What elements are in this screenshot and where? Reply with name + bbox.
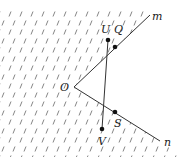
hatch-mark [167, 75, 169, 80]
hatch-mark [53, 84, 55, 89]
hatch-mark [123, 111, 125, 116]
hatch-mark [97, 30, 99, 35]
point-q [113, 45, 118, 50]
hatch-mark [75, 48, 77, 53]
hatch-mark [20, 84, 22, 89]
hatch-mark [156, 39, 158, 44]
hatch-mark [75, 30, 77, 35]
hatch-mark [156, 57, 158, 62]
hatch-mark [112, 75, 114, 80]
hatch-mark [101, 75, 103, 80]
hatch-mark [31, 12, 33, 17]
hatch-mark [64, 66, 66, 71]
label-ray-n: n [164, 136, 171, 149]
hatch-mark [86, 84, 88, 89]
hatch-mark [9, 84, 11, 89]
hatch-mark [101, 93, 103, 98]
hatch-mark [178, 111, 180, 116]
hatch-mark [86, 156, 88, 158]
hatch-mark [68, 111, 70, 116]
hatch-mark [20, 12, 22, 17]
label-point-u: U [101, 23, 111, 36]
hatch-mark [68, 57, 70, 62]
hatch-mark [35, 129, 37, 134]
hatch-mark [145, 39, 147, 44]
hatch-mark [35, 57, 37, 62]
hatch-mark [2, 129, 4, 134]
hatch-mark [35, 147, 37, 152]
hatch-mark [97, 120, 99, 125]
hatch-mark [24, 21, 26, 26]
hatch-mark [75, 156, 77, 158]
hatch-mark [64, 12, 66, 17]
hatch-mark [163, 120, 165, 125]
hatch-mark [24, 129, 26, 134]
hatch-mark [141, 120, 143, 125]
hatch-mark [57, 93, 59, 98]
hatch-mark [134, 147, 136, 152]
hatch-mark [167, 21, 169, 26]
hatch-mark [20, 120, 22, 125]
hatch-mark [35, 75, 37, 80]
hatch-mark [152, 156, 154, 158]
hatch-mark [57, 39, 59, 44]
hatch-mark [57, 57, 59, 62]
hatch-mark [75, 102, 77, 107]
hatch-mark [57, 111, 59, 116]
hatch-mark [79, 93, 81, 98]
hatch-mark [123, 129, 125, 134]
hatch-mark [64, 30, 66, 35]
hatch-mark [53, 30, 55, 35]
hatch-mark [119, 66, 121, 71]
hatch-mark [123, 93, 125, 98]
hatch-mark [141, 30, 143, 35]
hatch-mark [42, 30, 44, 35]
hatch-mark [9, 66, 11, 71]
hatch-mark [141, 12, 143, 17]
hatch-mark [145, 57, 147, 62]
hatch-mark [141, 48, 143, 53]
hatch-mark [2, 111, 4, 116]
hatch-mark [13, 147, 15, 152]
hatch-mark [108, 138, 110, 143]
hatch-mark [108, 48, 110, 53]
hatch-mark [46, 21, 48, 26]
hatch-mark [86, 66, 88, 71]
hatch-mark [134, 129, 136, 134]
hatch-mark [24, 147, 26, 152]
hatch-mark [97, 12, 99, 17]
hatch-mark [163, 48, 165, 53]
label-point-q: Q [114, 23, 123, 36]
hatch-mark [64, 102, 66, 107]
hatch-mark [97, 66, 99, 71]
hatch-mark [108, 156, 110, 158]
hatch-mark [130, 12, 132, 17]
hatch-mark [130, 138, 132, 143]
hatch-mark [86, 48, 88, 53]
geometry-diagram: O m n U Q S V [0, 0, 181, 157]
hatch-mark [31, 66, 33, 71]
hatch-mark [2, 57, 4, 62]
hatch-mark [24, 75, 26, 80]
hatch-mark [119, 12, 121, 17]
hatch-mark [42, 120, 44, 125]
hatch-mark [178, 129, 180, 134]
hatch-mark [13, 129, 15, 134]
hatch-mark [42, 12, 44, 17]
hatch-mark [141, 66, 143, 71]
hatch-mark [31, 102, 33, 107]
hatch-mark [112, 39, 114, 44]
hatch-mark [90, 111, 92, 116]
hatch-mark [152, 138, 154, 143]
hatch-mark [167, 93, 169, 98]
hatch-mark [130, 102, 132, 107]
hatch-mark [9, 12, 11, 17]
hatch-mark [90, 57, 92, 62]
hatch-mark [68, 39, 70, 44]
hatch-mark [108, 120, 110, 125]
hatch-mark [108, 102, 110, 107]
point-v [100, 127, 105, 132]
hatch-mark [134, 93, 136, 98]
hatch-mark [53, 138, 55, 143]
hatch-mark [178, 39, 180, 44]
